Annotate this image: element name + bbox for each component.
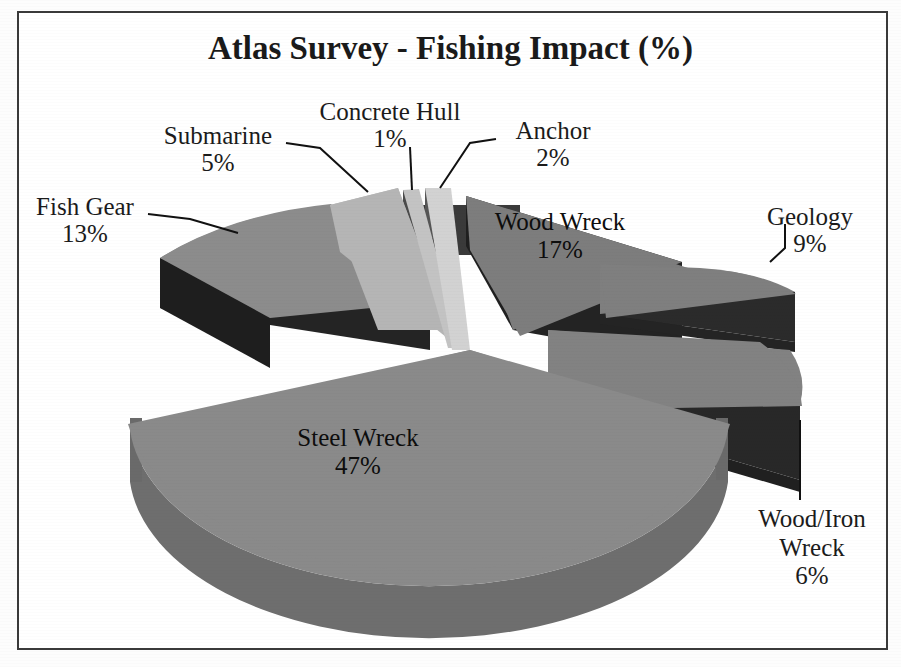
label-anchor-value: 2% bbox=[498, 144, 608, 171]
label-wood-wreck-name: Wood Wreck bbox=[470, 208, 650, 236]
label-steel-wreck-value: 47% bbox=[268, 452, 448, 480]
label-wood-iron-wreck-line1: Wood/Iron bbox=[742, 505, 882, 534]
label-concrete-hull: Concrete Hull 1% bbox=[300, 98, 480, 152]
label-wood-iron-wreck-line2: Wreck bbox=[742, 534, 882, 563]
label-anchor: Anchor 2% bbox=[498, 117, 608, 171]
label-fish-gear-value: 13% bbox=[20, 220, 150, 247]
label-steel-wreck-name: Steel Wreck bbox=[268, 424, 448, 452]
label-wood-wreck-value: 17% bbox=[470, 236, 650, 264]
label-wood-iron-wreck: Wood/Iron Wreck 6% bbox=[742, 505, 882, 591]
label-steel-wreck: Steel Wreck 47% bbox=[268, 424, 448, 480]
label-geology-value: 9% bbox=[750, 230, 870, 257]
label-fish-gear: Fish Gear 13% bbox=[20, 193, 150, 247]
label-wood-wreck: Wood Wreck 17% bbox=[470, 208, 650, 264]
label-geology-name: Geology bbox=[750, 203, 870, 230]
label-submarine-value: 5% bbox=[148, 149, 288, 176]
leader-line-concrete-hull bbox=[410, 147, 412, 190]
label-concrete-hull-name: Concrete Hull bbox=[300, 98, 480, 125]
label-submarine-name: Submarine bbox=[148, 122, 288, 149]
chart-page: Atlas Survey - Fishing Impact (%) bbox=[0, 0, 901, 667]
label-submarine: Submarine 5% bbox=[148, 122, 288, 176]
label-concrete-hull-value: 1% bbox=[300, 125, 480, 152]
label-anchor-name: Anchor bbox=[498, 117, 608, 144]
label-geology: Geology 9% bbox=[750, 203, 870, 257]
label-fish-gear-name: Fish Gear bbox=[20, 193, 150, 220]
label-wood-iron-wreck-value: 6% bbox=[742, 562, 882, 591]
